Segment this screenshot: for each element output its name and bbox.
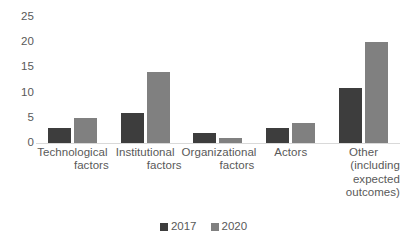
- y-axis: 2520151050: [0, 0, 34, 150]
- bar-2017-0: [48, 128, 71, 143]
- x-axis-line: [36, 143, 400, 144]
- legend-item-2017[interactable]: 2017: [160, 221, 197, 233]
- legend-label: 2020: [222, 221, 248, 233]
- bar-chart: 2520151050 TechnologicalfactorsInstituti…: [0, 0, 407, 245]
- x-axis-category-line: Institutional: [109, 146, 182, 159]
- y-axis-tick-label: 0: [0, 137, 34, 149]
- bar-2017-2: [193, 133, 216, 143]
- x-axis-category-line: expected: [327, 173, 400, 186]
- bar-group-bars: [36, 17, 109, 143]
- x-axis-category-line: factors: [182, 159, 255, 172]
- x-axis-category-label: Actors: [254, 146, 327, 159]
- x-axis-category-line: (including: [327, 159, 400, 172]
- legend-swatch-icon: [211, 223, 219, 231]
- bar-group-bars: [254, 17, 327, 143]
- bar-2020-3: [292, 123, 315, 143]
- x-axis-category-line: factors: [36, 159, 109, 172]
- plot-area: [36, 17, 400, 143]
- legend-item-2020[interactable]: 2020: [211, 221, 248, 233]
- y-axis-tick-label: 20: [0, 36, 34, 48]
- bar-group: [327, 17, 400, 143]
- x-axis-category-line: Other: [327, 146, 400, 159]
- x-axis-category-label: Organizationalfactors: [182, 146, 255, 173]
- x-axis: TechnologicalfactorsInstitutionalfactors…: [36, 146, 400, 221]
- y-axis-tick-label: 10: [0, 87, 34, 99]
- x-axis-category-line: factors: [109, 159, 182, 172]
- bar-2017-3: [266, 128, 289, 143]
- legend-swatch-icon: [160, 223, 168, 231]
- x-axis-category-line: Organizational: [182, 146, 255, 159]
- bar-group: [36, 17, 109, 143]
- x-axis-category-label: Technologicalfactors: [36, 146, 109, 173]
- x-axis-category-line: Actors: [254, 146, 327, 159]
- y-axis-tick-label: 25: [0, 11, 34, 23]
- bar-group-bars: [327, 17, 400, 143]
- bar-2017-1: [121, 113, 144, 143]
- bar-2020-4: [365, 42, 388, 143]
- x-axis-category-label: Other(includingexpectedoutcomes): [327, 146, 400, 200]
- x-axis-category-line: Technological: [36, 146, 109, 159]
- bar-group: [109, 17, 182, 143]
- bar-2020-0: [74, 118, 97, 143]
- legend-label: 2017: [171, 221, 197, 233]
- bar-group-bars: [109, 17, 182, 143]
- chart-legend: 20172020: [0, 221, 407, 233]
- bar-2020-1: [147, 72, 170, 143]
- bar-2017-4: [339, 88, 362, 143]
- x-axis-category-line: outcomes): [327, 186, 400, 199]
- y-axis-tick-label: 15: [0, 61, 34, 73]
- bar-group: [182, 17, 255, 143]
- x-axis-category-label: Institutionalfactors: [109, 146, 182, 173]
- y-axis-tick-label: 5: [0, 112, 34, 124]
- bar-group: [254, 17, 327, 143]
- bar-group-bars: [182, 17, 255, 143]
